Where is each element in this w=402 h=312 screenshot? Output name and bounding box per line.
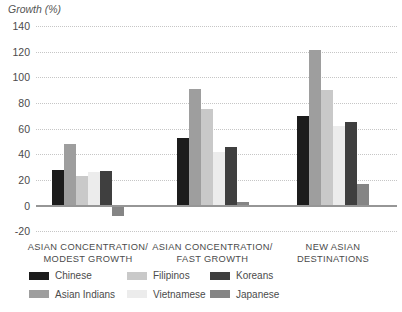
bar-asian-indians-group3 <box>309 50 321 205</box>
legend-item-chinese: Chinese <box>29 270 92 281</box>
y-tick-label-100: 100 <box>2 71 30 83</box>
legend-swatch-koreans <box>210 272 230 280</box>
gridline-80 <box>36 103 397 104</box>
bar-vietnamese-group3 <box>333 126 345 205</box>
bar-japanese-group3 <box>357 184 369 206</box>
legend-label-vietnamese: Vietnamese <box>153 289 206 300</box>
category-label-line: FAST GROWTH <box>152 254 272 266</box>
bar-chinese-group2 <box>177 138 189 206</box>
legend-swatch-japanese <box>210 290 230 298</box>
chart-title: Growth (%) <box>8 3 61 15</box>
y-tick-label-140: 140 <box>2 20 30 32</box>
bar-koreans-group2 <box>225 147 237 206</box>
y-tick-label-120: 120 <box>2 46 30 58</box>
category-label-group3: NEW ASIANDESTINATIONS <box>297 242 369 265</box>
y-tick-label-60: 60 <box>2 123 30 135</box>
legend-label-japanese: Japanese <box>236 289 279 300</box>
bar-vietnamese-group2 <box>213 152 225 206</box>
gridline--20 <box>36 231 397 232</box>
legend-item-japanese: Japanese <box>210 289 279 300</box>
legend-item-vietnamese: Vietnamese <box>127 289 206 300</box>
growth-bar-chart: Growth (%) 140120100806040200-20 ASIAN C… <box>0 0 402 312</box>
bar-asian-indians-group2 <box>189 89 201 206</box>
category-label-line: ASIAN CONCENTRATION/ <box>152 242 272 254</box>
legend-swatch-vietnamese <box>127 290 147 298</box>
bar-filipinos-group3 <box>321 90 333 205</box>
gridline-100 <box>36 77 397 78</box>
category-label-group2: ASIAN CONCENTRATION/FAST GROWTH <box>152 242 272 265</box>
category-label-line: ASIAN CONCENTRATION/ <box>28 242 148 254</box>
y-tick-label-80: 80 <box>2 97 30 109</box>
legend-item-asian-indians: Asian Indians <box>29 289 115 300</box>
category-label-group1: ASIAN CONCENTRATION/MODEST GROWTH <box>28 242 148 265</box>
legend-swatch-asian-indians <box>29 290 49 298</box>
legend-label-asian-indians: Asian Indians <box>55 289 115 300</box>
legend-swatch-filipinos <box>127 272 147 280</box>
bar-asian-indians-group1 <box>64 144 76 205</box>
legend-item-filipinos: Filipinos <box>127 270 190 281</box>
bar-koreans-group3 <box>345 122 357 205</box>
bar-chinese-group1 <box>52 170 64 206</box>
bar-filipinos-group1 <box>76 176 88 205</box>
legend-label-filipinos: Filipinos <box>153 270 190 281</box>
bar-japanese-group2 <box>237 202 249 206</box>
bar-vietnamese-group1 <box>88 172 100 205</box>
y-tick-label--20: -20 <box>2 225 30 237</box>
legend-label-koreans: Koreans <box>236 270 273 281</box>
bar-koreans-group1 <box>100 171 112 206</box>
legend-item-koreans: Koreans <box>210 270 273 281</box>
category-label-line: MODEST GROWTH <box>28 254 148 266</box>
bar-japanese-group1 <box>112 207 124 216</box>
category-label-line: NEW ASIAN <box>297 242 369 254</box>
y-tick-label-0: 0 <box>2 200 30 212</box>
category-label-line: DESTINATIONS <box>297 254 369 266</box>
legend-swatch-chinese <box>29 272 49 280</box>
gridline-140 <box>36 26 397 27</box>
gridline-120 <box>36 52 397 53</box>
bar-filipinos-group2 <box>201 109 213 205</box>
y-tick-label-40: 40 <box>2 148 30 160</box>
y-tick-label-20: 20 <box>2 174 30 186</box>
legend-label-chinese: Chinese <box>55 270 92 281</box>
bar-chinese-group3 <box>297 116 309 206</box>
